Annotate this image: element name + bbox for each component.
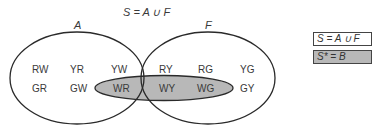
set-f-label: F xyxy=(205,19,213,31)
venn-diagram: S = A ∪ F A F RW YR YW GR GW WR RY WY RG… xyxy=(0,0,380,132)
element-wg: WG xyxy=(197,83,214,94)
diagram-title: S = A ∪ F xyxy=(123,6,172,18)
element-rg: RG xyxy=(198,64,213,75)
legend-union: S = A ∪ F xyxy=(313,32,372,46)
element-gr: GR xyxy=(32,83,47,94)
set-a-label: A xyxy=(73,19,81,31)
element-yg: YG xyxy=(240,64,255,75)
element-gy: GY xyxy=(240,83,255,94)
legend-complement: S* = B xyxy=(313,50,372,64)
element-gw: GW xyxy=(70,83,88,94)
element-yr: YR xyxy=(70,64,84,75)
element-wr: WR xyxy=(113,83,130,94)
element-rw: RW xyxy=(32,64,49,75)
element-yw: YW xyxy=(111,64,128,75)
element-ry: RY xyxy=(159,64,173,75)
element-wy: WY xyxy=(159,83,175,94)
